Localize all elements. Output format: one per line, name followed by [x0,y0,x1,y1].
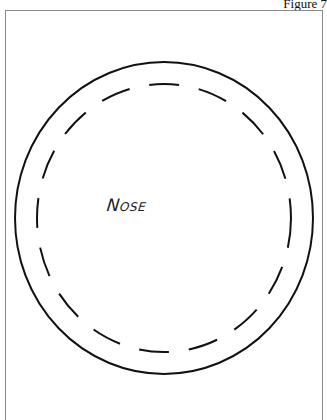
inner-dashed-circle [37,84,291,352]
nose-label: Nose [106,195,147,215]
nose-label-text: Nose [106,195,147,215]
outer-circle [15,62,313,374]
